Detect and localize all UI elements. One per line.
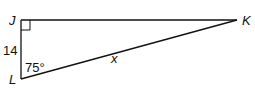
vertex-label-j: J (8, 13, 16, 28)
triangle-jkl (21, 20, 237, 79)
side-label-jl: 14 (3, 43, 17, 58)
right-angle-marker (21, 20, 30, 30)
vertex-label-k: K (242, 13, 252, 28)
triangle-diagram: J K L 14 75° x (0, 0, 255, 90)
angle-label-l: 75° (25, 60, 45, 75)
side-lk (21, 20, 237, 79)
vertex-label-l: L (9, 72, 16, 87)
side-label-lk: x (110, 51, 118, 66)
